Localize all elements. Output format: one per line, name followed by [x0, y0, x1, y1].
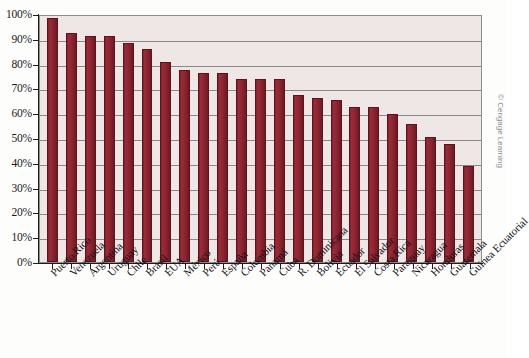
bar-slot: [43, 16, 62, 262]
bar: [66, 33, 77, 262]
bar-slot: [346, 16, 365, 262]
bar-slot: [100, 16, 119, 262]
bar: [217, 73, 228, 262]
bar: [198, 73, 209, 262]
y-tick-mark: [33, 65, 39, 66]
bar-slot: [402, 16, 421, 262]
bar: [123, 43, 134, 262]
bars-container: [40, 16, 481, 262]
y-tick-label: 100%: [6, 9, 32, 21]
y-tick-mark: [33, 213, 39, 214]
bar-slot: [251, 16, 270, 262]
y-tick-label: 10%: [12, 232, 32, 244]
y-tick-mark: [33, 40, 39, 41]
credit-watermark: © Cengage Learning: [496, 94, 505, 168]
bar: [142, 49, 153, 262]
bar-slot: [194, 16, 213, 262]
bar-slot: [138, 16, 157, 262]
bar-slot: [364, 16, 383, 262]
y-tick-label: 0%: [17, 257, 32, 269]
y-tick-label: 80%: [12, 59, 32, 71]
y-tick-label: 50%: [12, 133, 32, 145]
y-tick-mark: [33, 189, 39, 190]
bar-slot: [270, 16, 289, 262]
bar: [160, 62, 171, 262]
bar-slot: [175, 16, 194, 262]
y-tick-mark: [33, 238, 39, 239]
y-tick-mark: [33, 114, 39, 115]
bar: [293, 95, 304, 262]
y-tick-mark: [33, 164, 39, 165]
y-tick-label: 70%: [12, 84, 32, 96]
bar-slot: [459, 16, 478, 262]
y-tick-mark: [33, 89, 39, 90]
bar: [179, 70, 190, 262]
bar: [274, 79, 285, 262]
bar-slot: [289, 16, 308, 262]
y-tick-label: 40%: [12, 158, 32, 170]
y-axis: 100%90%80%70%60%50%40%30%20%10%0%: [0, 0, 38, 358]
y-tick-label: 60%: [12, 108, 32, 120]
bar-slot: [232, 16, 251, 262]
y-tick-mark: [33, 139, 39, 140]
bar-slot: [421, 16, 440, 262]
x-axis: Puerto RicoVenezuelaArgentinaUruguayChil…: [39, 270, 482, 358]
bar: [368, 107, 379, 262]
bar: [104, 36, 115, 262]
bar: [349, 107, 360, 262]
bar-slot: [440, 16, 459, 262]
bar-slot: [308, 16, 327, 262]
y-tick-mark: [33, 15, 39, 16]
bar-slot: [119, 16, 138, 262]
bar: [47, 18, 58, 262]
bar: [85, 36, 96, 262]
bar-slot: [213, 16, 232, 262]
y-tick-mark: [33, 263, 39, 264]
bar-slot: [62, 16, 81, 262]
bar: [236, 79, 247, 262]
y-tick-label: 30%: [12, 183, 32, 195]
bar: [312, 98, 323, 262]
y-tick-label: 20%: [12, 208, 32, 220]
y-tick-label: 90%: [12, 34, 32, 46]
bar: [255, 79, 266, 262]
bar-slot: [383, 16, 402, 262]
plot-area: [39, 15, 482, 263]
bar-slot: [81, 16, 100, 262]
bar-slot: [156, 16, 175, 262]
